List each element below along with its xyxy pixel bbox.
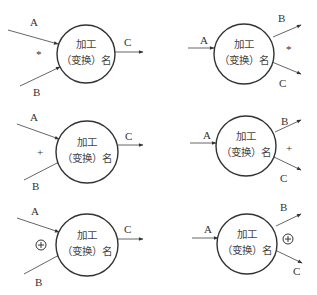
process-name-line2: （变换）名 [62,245,112,257]
flow-b-label: B [278,12,285,24]
flow-c-label: C [124,223,131,235]
flow-c-label: C [125,130,132,142]
process-name-line1: 加工 [77,229,97,241]
flow-b-label: B [33,86,40,98]
and-operator: * [36,48,42,60]
flow-a-label: A [30,16,38,28]
panel-merge-or: A B C + 加工 （变换）名 [17,111,143,192]
process-name-line1: 加工 [234,38,254,50]
or-operator: + [37,146,43,158]
and-operator: * [286,43,292,55]
panel-split-or: A B C + 加工 （变换）名 [190,115,301,184]
flow-b-arrow [276,214,301,226]
dfd-logic-diagram: A B C * 加工 （变换）名 A B C * 加工 （变换）名 A B C … [0,0,317,295]
process-name-line1: 加工 [236,130,256,142]
flow-a-arrow [17,124,59,139]
flow-b-arrow [20,67,60,86]
flow-a-label: A [31,205,39,217]
flow-b-arrow [24,161,61,180]
process-name-line1: 加工 [76,38,96,50]
flow-a-arrow [17,218,59,232]
flow-b-label: B [35,276,42,288]
flow-b-label: B [281,115,288,127]
panel-split-xor: A B C 加工 （变换）名 [192,201,302,277]
process-name-line2: （变换）名 [61,54,111,66]
xor-operator-icon [283,234,293,244]
flow-a-label: A [203,129,211,141]
flow-c-label: C [124,36,131,48]
flow-a-label: A [30,111,38,123]
process-name-line2: （变换）名 [62,152,112,164]
flow-c-arrow [274,157,301,170]
process-name-line1: 加工 [77,136,97,148]
process-name-line2: （变换）名 [219,54,269,66]
panel-merge-xor: A B C 加工 （变换）名 [17,205,143,288]
process-name-line2: （变换）名 [222,244,272,256]
flow-a-label: A [204,223,212,235]
flow-b-label: B [280,201,287,213]
or-operator: + [286,142,292,154]
flow-a-label: A [200,34,208,46]
process-name-line1: 加工 [237,228,257,240]
flow-b-arrow [24,254,61,274]
panel-split-and: A B C * 加工 （变换）名 [188,12,301,89]
flow-c-label: C [279,77,286,89]
flow-b-arrow [273,25,301,37]
flow-c-label: C [280,172,287,184]
panel-merge-and: A B C * 加工 （变换）名 [8,16,143,98]
process-name-line2: （变换）名 [221,146,271,158]
flow-c-arrow [275,250,302,263]
flow-a-arrow [8,30,58,44]
flow-b-label: B [32,180,39,192]
flow-c-label: C [293,265,300,277]
flow-c-arrow [272,62,301,74]
xor-operator-icon [36,240,46,250]
